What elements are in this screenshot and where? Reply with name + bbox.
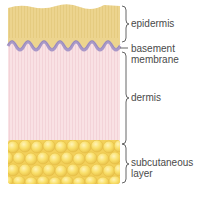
dermis-bracket — [122, 52, 129, 144]
epidermis-layer — [8, 4, 120, 42]
skin-layers-diagram: epidermis basement membrane dermis subcu… — [0, 0, 199, 199]
basement-membrane-label: basement membrane — [131, 43, 179, 65]
subcutaneous-fat-layer — [3, 140, 124, 187]
subcutaneous-bracket — [122, 144, 129, 183]
subcutaneous-layer-label: subcutaneous layer — [131, 157, 193, 179]
dermis-label: dermis — [131, 92, 161, 103]
brackets — [120, 6, 129, 183]
dermis-layer — [8, 44, 120, 146]
epidermis-label: epidermis — [131, 18, 174, 29]
epidermis-bracket — [122, 6, 129, 42]
